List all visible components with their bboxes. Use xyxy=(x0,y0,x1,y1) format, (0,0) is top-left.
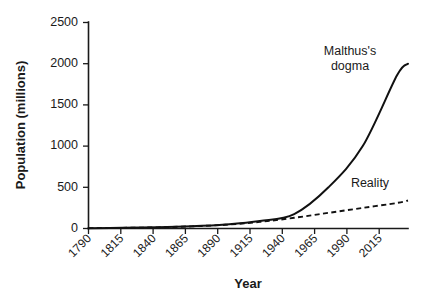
y-axis-title: Population (millions) xyxy=(13,61,28,190)
y-tick-label: 2000 xyxy=(50,56,78,70)
x-tick-label: 1815 xyxy=(98,231,127,260)
y-tick-label: 2500 xyxy=(50,15,78,29)
x-tick-label: 1840 xyxy=(130,231,159,260)
x-tick-label: 1990 xyxy=(324,231,353,260)
x-tick-label: 1940 xyxy=(259,231,288,260)
y-tick-label: 500 xyxy=(57,180,78,194)
x-tick-labels: 1790 1815 1840 1865 1890 1915 1940 1965 … xyxy=(65,231,385,260)
annotation-reality: Reality xyxy=(351,176,390,190)
x-tick-label: 2015 xyxy=(356,231,385,260)
series-line-malthus-dogma xyxy=(89,64,409,228)
chart-svg: Population (millions) Year 0 500 1000 15… xyxy=(0,0,427,302)
x-axis-title: Year xyxy=(234,276,261,291)
x-tick-group xyxy=(89,229,380,235)
y-tick-label: 1000 xyxy=(50,138,78,152)
x-tick-label: 1890 xyxy=(195,231,224,260)
annotation-reality-label: Reality xyxy=(351,176,390,190)
annotation-malthus-line2: dogma xyxy=(331,59,369,73)
x-tick-label: 1865 xyxy=(162,231,191,260)
series-line-reality xyxy=(89,200,409,228)
annotation-malthus-line1: Malthus's xyxy=(324,44,376,58)
x-tick-label: 1790 xyxy=(65,231,94,260)
y-tick-labels: 0 500 1000 1500 2000 2500 xyxy=(50,15,78,235)
x-tick-label: 1965 xyxy=(291,231,320,260)
population-chart-figure: Population (millions) Year 0 500 1000 15… xyxy=(0,0,427,302)
x-tick-label: 1915 xyxy=(227,231,256,260)
y-tick-label: 1500 xyxy=(50,97,78,111)
y-tick-group xyxy=(83,23,89,229)
y-tick-label: 0 xyxy=(71,221,78,235)
annotation-malthus-dogma: Malthus's dogma xyxy=(324,44,376,73)
